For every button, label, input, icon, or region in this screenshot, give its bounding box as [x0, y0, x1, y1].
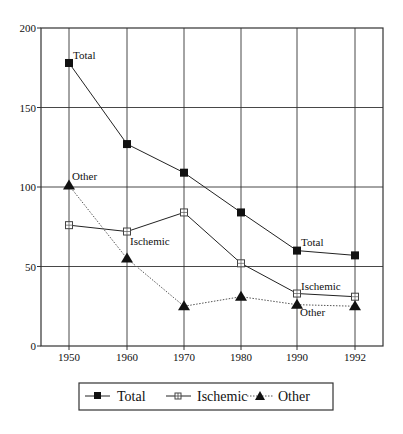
- filled-square-marker-icon: [237, 208, 245, 216]
- open-square-marker-icon: [124, 228, 131, 235]
- annotations: Total Other Ischemic Total Ischemic Othe…: [72, 49, 341, 318]
- x-tick-label: 1992: [344, 351, 366, 363]
- annotation-ischemic-1960: Ischemic: [130, 235, 170, 247]
- y-tick-label: 50: [25, 261, 37, 273]
- series-layer: [63, 59, 361, 310]
- open-square-marker-icon: [294, 290, 301, 297]
- x-tick-label: 1950: [58, 351, 81, 363]
- y-tick-label: 200: [20, 22, 37, 34]
- y-tick-label: 150: [20, 102, 37, 114]
- filled-square-marker-icon: [351, 251, 359, 259]
- open-square-marker-icon: [238, 260, 245, 267]
- filled-triangle-marker-icon: [349, 300, 361, 310]
- annotation-ischemic-1990: Ischemic: [301, 280, 341, 292]
- open-square-marker-icon: [66, 222, 73, 229]
- filled-square-marker-icon: [123, 140, 131, 148]
- filled-triangle-marker-icon: [235, 291, 247, 301]
- x-tick-label: 1980: [230, 351, 253, 363]
- annotation-total-1950: Total: [73, 49, 95, 61]
- filled-square-marker-icon: [293, 247, 301, 255]
- annotation-total-1990: Total: [301, 236, 323, 248]
- filled-square-marker-icon: [65, 59, 73, 67]
- legend-label-ischemic: Ischemic: [197, 389, 248, 404]
- x-tick-label: 1990: [286, 351, 309, 363]
- filled-square-icon: [94, 392, 101, 399]
- y-tick-label: 0: [31, 340, 37, 352]
- series-line: [69, 63, 355, 255]
- legend-label-other: Other: [278, 389, 310, 404]
- annotation-other-1990: Other: [300, 306, 325, 318]
- open-square-marker-icon: [352, 293, 359, 300]
- x-tick-label: 1970: [173, 351, 196, 363]
- open-square-cross-icon: [175, 393, 181, 399]
- legend: Total Ischemic Other: [79, 383, 333, 410]
- y-axis: 050100150200: [20, 22, 42, 352]
- line-chart: 050100150200 195019601970198019901992 To…: [0, 0, 403, 434]
- y-tick-label: 100: [20, 181, 37, 193]
- grid-lines: [41, 28, 383, 346]
- annotation-other-1950: Other: [72, 170, 97, 182]
- x-axis: 195019601970198019901992: [58, 346, 366, 363]
- legend-label-total: Total: [117, 389, 146, 404]
- open-square-marker-icon: [181, 209, 188, 216]
- filled-square-marker-icon: [180, 169, 188, 177]
- x-tick-label: 1960: [116, 351, 139, 363]
